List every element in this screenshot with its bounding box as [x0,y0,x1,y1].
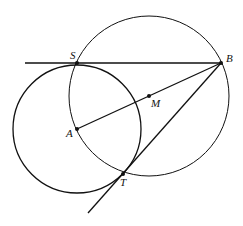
label-A: A [66,128,73,139]
point-A [75,127,79,131]
label-B: B [226,53,233,64]
point-B [219,61,223,65]
geometry-diagram: S B M A T [0,0,243,226]
tangent-line-BT [88,63,221,213]
label-M: M [151,98,160,109]
diagram-canvas [0,0,243,226]
label-S: S [70,50,76,61]
label-T: T [120,177,126,188]
point-S [75,61,79,65]
